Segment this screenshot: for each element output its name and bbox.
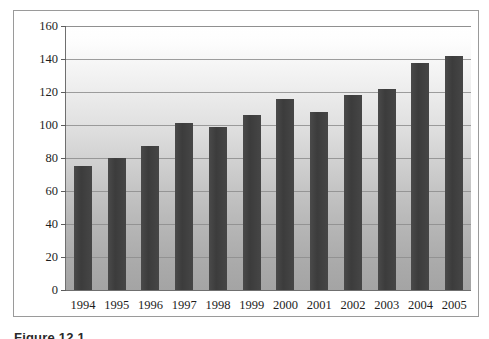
bar-1998 — [209, 127, 227, 290]
y-axis-tick-mark — [61, 26, 66, 27]
figure-caption: Figure 12.1 — [14, 330, 85, 339]
x-axis-tick-label-1998: 1998 — [205, 299, 230, 312]
bar-2002 — [344, 95, 362, 290]
y-axis-tick-mark — [61, 59, 66, 60]
bar-2001 — [310, 112, 328, 290]
y-axis-tick-label: 140 — [39, 53, 58, 66]
x-axis-tick-label-2000: 2000 — [273, 299, 298, 312]
y-axis-tick-mark — [61, 257, 66, 258]
x-axis-tick-label-2005: 2005 — [442, 299, 467, 312]
x-axis-tick-label-2002: 2002 — [340, 299, 365, 312]
y-axis-tick-mark — [61, 158, 66, 159]
y-axis-tick-label: 100 — [39, 119, 58, 132]
y-axis-tick-mark — [61, 125, 66, 126]
y-axis-tick-mark — [61, 290, 66, 291]
bar-1995 — [108, 158, 126, 290]
y-axis-tick-mark — [61, 92, 66, 93]
gridline — [66, 257, 471, 258]
gridline — [66, 59, 471, 60]
y-axis-tick-label: 0 — [52, 284, 58, 297]
x-axis-tick-label-1994: 1994 — [70, 299, 95, 312]
bar-1997 — [175, 123, 193, 290]
y-axis-tick-label: 20 — [46, 251, 59, 264]
y-axis-tick-label: 40 — [46, 218, 59, 231]
figure-root: 020406080100120140160 199419951996199719… — [0, 0, 489, 339]
gridline — [66, 92, 471, 93]
y-axis-tick-mark — [61, 224, 66, 225]
x-axis-tick-label-1996: 1996 — [138, 299, 163, 312]
bar-1996 — [141, 146, 159, 290]
gridline — [66, 158, 471, 159]
bar-1999 — [243, 115, 261, 290]
y-axis-tick-label: 80 — [46, 152, 59, 165]
chart-frame: 020406080100120140160 199419951996199719… — [13, 10, 479, 317]
x-axis-tick-label-1999: 1999 — [239, 299, 264, 312]
bar-1994 — [74, 166, 92, 290]
bar-2000 — [276, 99, 294, 290]
x-axis-tick-label-2001: 2001 — [307, 299, 332, 312]
y-axis-tick-label: 160 — [39, 20, 58, 33]
x-axis-tick-label-2003: 2003 — [374, 299, 399, 312]
y-axis-tick-label: 120 — [39, 86, 58, 99]
plot-area: 020406080100120140160 199419951996199719… — [65, 26, 471, 291]
x-axis-tick-label-2004: 2004 — [408, 299, 433, 312]
gridline — [66, 125, 471, 126]
x-axis-tick-label-1995: 1995 — [104, 299, 129, 312]
y-axis-tick-mark — [61, 191, 66, 192]
bar-2003 — [378, 89, 396, 290]
y-axis-tick-label: 60 — [46, 185, 59, 198]
gridline — [66, 191, 471, 192]
bar-2005 — [445, 56, 463, 290]
bar-2004 — [411, 63, 429, 290]
gridline — [66, 224, 471, 225]
x-axis-tick-label-1997: 1997 — [172, 299, 197, 312]
gridline — [66, 26, 471, 27]
